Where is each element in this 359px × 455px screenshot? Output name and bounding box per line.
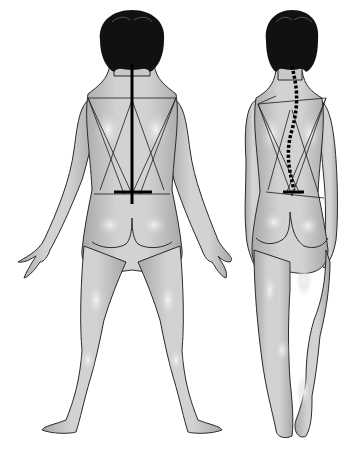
- illustration: [0, 0, 359, 455]
- hair-scoliosis: [266, 10, 318, 72]
- figure-scoliosis: [245, 70, 337, 438]
- hair-normal: [100, 10, 164, 72]
- head-scoliosis: [266, 10, 318, 80]
